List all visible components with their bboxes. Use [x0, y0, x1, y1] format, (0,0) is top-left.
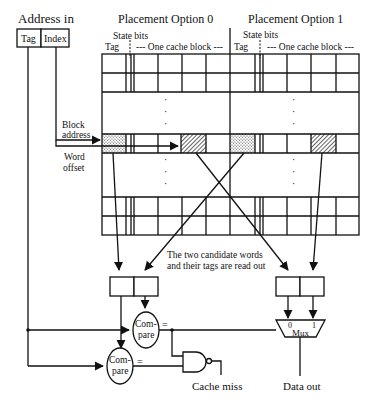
cache-miss-label: Cache miss — [192, 380, 242, 392]
address-in-title: Address in — [18, 11, 74, 26]
svg-text:·: · — [292, 106, 295, 117]
option-0-tag-readout — [113, 153, 119, 270]
option-0-block-label: --- One cache block --- — [136, 42, 223, 52]
compare-1-to-nand — [172, 330, 184, 356]
svg-text:·: · — [292, 94, 295, 105]
mux-input-1: 1 — [312, 321, 316, 330]
svg-text:·: · — [164, 166, 167, 177]
option-1-word-cell-highlight — [311, 134, 336, 153]
cache-diagram: Address in Tag Index Placement Option 0 … — [0, 0, 374, 406]
option-1-tag-label: Tag — [234, 42, 248, 52]
compare-1-equals: = — [162, 319, 168, 330]
option-0-title: Placement Option 0 — [118, 12, 213, 26]
data-register — [276, 277, 324, 296]
word-offset-label-2: offset — [63, 163, 85, 173]
compare-2: Com- pare — [107, 348, 133, 384]
svg-text:pare: pare — [138, 330, 154, 340]
nand-gate — [183, 352, 212, 372]
option-0-word-cell-highlight — [181, 134, 206, 153]
option-0-state-bits-label: State bits — [113, 31, 148, 41]
svg-text:·: · — [164, 154, 167, 165]
svg-text:·: · — [292, 118, 295, 129]
svg-text:Com-: Com- — [135, 319, 157, 329]
option-1-title: Placement Option 1 — [248, 12, 343, 26]
svg-text:·: · — [292, 154, 295, 165]
tag-register — [110, 277, 158, 296]
block-address-label-2: address — [62, 130, 91, 140]
word-offset-label-1: Word — [64, 152, 85, 162]
option-1-block-label: --- One cache block --- — [267, 42, 354, 52]
address-index-field: Index — [44, 33, 67, 44]
block-address-label-1: Block — [62, 120, 85, 130]
option-1-state-bits-label: State bits — [243, 30, 278, 40]
address-register: Tag Index — [17, 29, 69, 47]
svg-text:Com-: Com- — [109, 355, 131, 365]
nand-to-cache-miss — [211, 361, 221, 375]
svg-text:·: · — [164, 178, 167, 189]
svg-text:·: · — [292, 178, 295, 189]
option-1-tag-cell-highlight — [230, 134, 255, 153]
svg-text:·: · — [164, 94, 167, 105]
readout-note-1: The two candidate words — [167, 250, 263, 260]
svg-text:·: · — [164, 118, 167, 129]
address-tag-field: Tag — [21, 33, 36, 44]
option-0-tag-cell-highlight — [102, 134, 126, 153]
readout-note-2: and their tags are read out — [167, 261, 266, 271]
data-out-label: Data out — [283, 380, 321, 392]
svg-text:pare: pare — [112, 366, 128, 376]
svg-text:·: · — [292, 166, 295, 177]
option-0-tag-label: Tag — [105, 42, 119, 52]
cache-grid: · · · · · · · · · · · · — [102, 54, 359, 235]
compare-1: Com- pare — [133, 312, 159, 348]
mux-label: Mux — [292, 328, 310, 338]
mux: 0 1 Mux — [276, 320, 325, 338]
svg-text:·: · — [164, 106, 167, 117]
option-1-word-readout — [313, 153, 322, 270]
